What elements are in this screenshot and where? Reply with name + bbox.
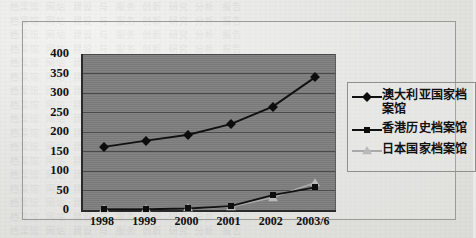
y-axis-tick-label: 300	[23, 85, 69, 100]
chart-legend: 澳大利亚国家档案馆香港历史档案馆日本国家档案馆	[347, 82, 476, 172]
legend-item: 澳大利亚国家档案馆	[352, 88, 471, 116]
plot-area	[81, 54, 336, 212]
y-axis-tick-label: 400	[23, 46, 69, 61]
y-axis-tick-label: 200	[23, 124, 69, 139]
series-line	[104, 187, 315, 209]
square-marker-glyph	[364, 127, 370, 133]
square-marker	[270, 192, 276, 198]
series-lines	[83, 54, 336, 210]
y-axis-tick-label: 150	[23, 144, 69, 159]
y-axis-tick-label: 50	[23, 183, 69, 198]
square-marker	[143, 206, 149, 212]
legend-label: 香港历史档案馆	[382, 121, 467, 135]
legend-item: 日本国家档案馆	[352, 142, 471, 158]
diamond-marker-glyph	[362, 92, 372, 102]
triangle-marker	[352, 143, 382, 158]
square-marker	[185, 205, 191, 211]
square-marker	[101, 206, 107, 212]
x-axis-tick-label: 2003/6	[285, 214, 341, 229]
y-axis-tick-label: 250	[23, 105, 69, 120]
legend-label: 日本国家档案馆	[382, 142, 467, 156]
series-line	[104, 77, 315, 146]
triangle-marker-glyph	[362, 146, 372, 154]
square-marker	[352, 122, 382, 137]
y-axis-tick-label: 350	[23, 66, 69, 81]
y-axis-tick-label: 0	[23, 202, 69, 217]
diamond-marker	[352, 89, 382, 104]
legend-item: 香港历史档案馆	[352, 121, 471, 137]
square-marker	[228, 203, 234, 209]
y-axis-tick-label: 100	[23, 163, 69, 178]
series-line	[104, 183, 315, 209]
chart-frame: 050100150200250300350400 199819992000200…	[22, 21, 456, 220]
legend-label: 澳大利亚国家档案馆	[382, 88, 471, 116]
square-marker	[312, 184, 318, 190]
